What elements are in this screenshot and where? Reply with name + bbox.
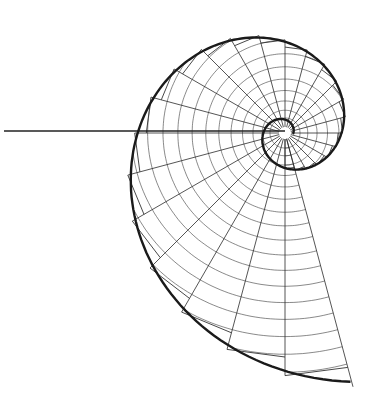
radial-line (201, 49, 280, 128)
radial-line (150, 137, 281, 268)
concentric-arc (134, 210, 329, 303)
radial-line (288, 64, 325, 128)
radial-line (287, 50, 308, 127)
radial-line (287, 139, 353, 387)
radial-line (128, 135, 279, 176)
spiral-canvas (0, 0, 384, 415)
radial-line (174, 69, 280, 130)
concentric-arc (153, 265, 333, 320)
concentric-arc (233, 347, 342, 355)
radial-line (259, 36, 284, 128)
radial-line (182, 138, 282, 312)
radial-line (289, 137, 317, 165)
spiral-diagram: Logarithmic spiral construction (0, 0, 384, 415)
radial-line (151, 97, 279, 131)
radial-line (289, 81, 337, 129)
radial-line (230, 38, 282, 127)
radial-line (132, 136, 279, 221)
concentric-arcs (133, 40, 352, 382)
